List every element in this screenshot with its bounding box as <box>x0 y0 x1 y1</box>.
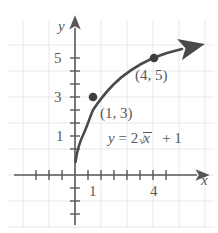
equation-equals: = <box>118 130 126 146</box>
equation-radicand: x <box>143 131 150 146</box>
data-point-1-3 <box>89 93 98 102</box>
y-tick-label-3: 3 <box>54 90 62 105</box>
y-axis-label: y <box>58 19 65 34</box>
equation-coefficient: 2 <box>131 130 139 146</box>
equation-constant: 1 <box>174 130 182 146</box>
grid-lines <box>8 20 214 228</box>
equation-annotation: y = 2√x + 1 <box>108 131 182 146</box>
y-tick-label-5: 5 <box>54 51 62 66</box>
x-tick-label-4: 4 <box>150 184 158 199</box>
equation-radical-group: √x <box>138 131 158 146</box>
math-graph-figure: y x 5 3 1 1 4 (1, 3) (4, 5) y = 2√x + 1 <box>0 0 218 233</box>
x-axis-label: x <box>201 173 208 188</box>
equation-lhs: y <box>108 130 115 146</box>
point-annotation-4-5: (4, 5) <box>135 68 168 83</box>
x-tick-label-1: 1 <box>89 184 97 199</box>
point-annotation-1-3: (1, 3) <box>100 106 133 121</box>
data-point-4-5 <box>150 54 159 63</box>
y-tick-label-1: 1 <box>56 129 64 144</box>
equation-plus: + <box>162 130 170 146</box>
